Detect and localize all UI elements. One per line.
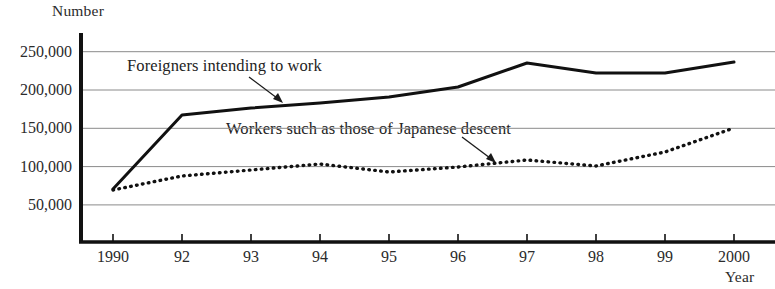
plot-area (0, 0, 775, 289)
series-line-workers (113, 128, 734, 190)
annotation-arrow-workers (462, 137, 496, 163)
line-chart: Number Year 250,000 200,000 150,000 100,… (0, 0, 775, 289)
axis-lines (79, 33, 775, 243)
gridlines (82, 52, 775, 205)
